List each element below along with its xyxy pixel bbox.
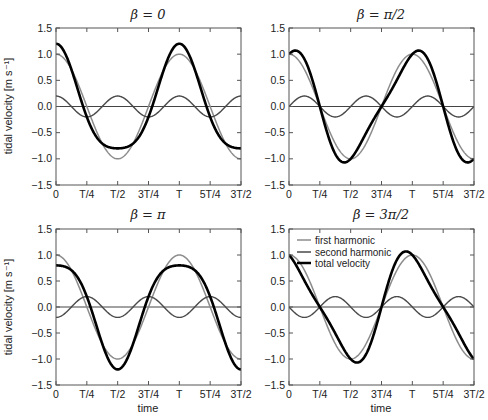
y-tick-label: −0.5 [31,126,52,138]
y-tick-label: 0.5 [270,275,285,287]
y-tick-label: −0.5 [264,126,285,138]
x-axis-label-left: time [138,402,159,414]
y-tick-label: 0.0 [37,301,52,313]
y-tick-label: −1.0 [264,353,285,365]
x-tick-label: 3T/4 [138,388,159,400]
x-tick-label: 0 [286,188,292,200]
y-tick-label: −1.0 [31,152,52,164]
legend-label-first-harmonic: first harmonic [315,235,375,246]
x-tick-label: 5T/4 [433,388,454,400]
legend: first harmonic second harmonic total vel… [297,235,391,269]
y-tick-label: 0.0 [270,100,285,112]
y-tick-label: 1.0 [270,249,285,261]
x-tick-label: T [409,388,416,400]
y-tick-label: −1.5 [31,379,52,391]
x-tick-label: T [176,188,183,200]
x-tick-label: T/4 [79,388,94,400]
panel-beta-pi-over-2: β = π/2 0T/4T/23T/4T5T/43T/21.51.00.50.0… [264,7,484,200]
total-velocity-line [56,44,241,149]
x-tick-label: 3T/2 [463,188,484,200]
x-tick-label: T/2 [110,388,125,400]
y-axis-label-bottom: tidal velocity [m s⁻¹] [2,259,14,355]
y-tick-label: 1.0 [37,48,52,60]
legend-label-second-harmonic: second harmonic [315,247,391,258]
y-tick-label: −1.0 [264,152,285,164]
y-tick-label: −0.5 [264,327,285,339]
x-tick-label: T [176,388,183,400]
y-tick-label: 1.5 [37,22,52,34]
x-tick-label: 0 [53,388,59,400]
panel-beta-0: β = 0 0T/4T/23T/4T5T/43T/21.51.00.50.0−0… [31,7,251,200]
panel-title: β = π/2 [356,7,405,22]
x-tick-label: T/2 [110,188,125,200]
y-tick-label: −1.5 [264,379,285,391]
y-tick-label: 1.5 [270,22,285,34]
total-velocity-line [56,265,241,369]
x-tick-label: 0 [286,388,292,400]
x-tick-label: T [409,188,416,200]
x-tick-label: 5T/4 [200,388,221,400]
y-tick-label: 0.5 [270,74,285,86]
x-tick-label: 0 [53,188,59,200]
y-tick-label: −0.5 [31,327,52,339]
y-tick-label: −1.5 [31,179,52,191]
x-tick-label: 3T/4 [371,188,392,200]
x-tick-label: T/4 [312,188,327,200]
panel-title: β = 3π/2 [352,207,409,222]
x-tick-label: T/2 [343,388,358,400]
figure: β = 0 0T/4T/23T/4T5T/43T/21.51.00.50.0−0… [0,0,488,420]
x-tick-label: 3T/2 [230,188,251,200]
y-tick-label: 0.0 [270,301,285,313]
x-tick-label: 5T/4 [200,188,221,200]
x-tick-label: 3T/2 [463,388,484,400]
y-axis-label-top: tidal velocity [m s⁻¹] [2,58,14,154]
x-tick-label: T/4 [312,388,327,400]
y-tick-label: 0.5 [37,74,52,86]
y-tick-label: 1.5 [37,223,52,235]
y-tick-label: −1.5 [264,179,285,191]
x-tick-label: 3T/4 [138,188,159,200]
x-tick-label: 3T/2 [230,388,251,400]
panel-title: β = 0 [130,7,166,22]
x-tick-label: T/4 [79,188,94,200]
y-tick-label: 1.0 [37,249,52,261]
y-tick-label: −1.0 [31,353,52,365]
x-tick-label: T/2 [343,188,358,200]
x-axis-label-right: time [371,402,392,414]
y-tick-label: 0.5 [37,275,52,287]
y-tick-label: 0.0 [37,100,52,112]
x-tick-label: 3T/4 [371,388,392,400]
panel-beta-pi: β = π 0T/4T/23T/4T5T/43T/21.51.00.50.0−0… [31,207,251,400]
panel-title: β = π [129,207,166,222]
y-tick-label: 1.5 [270,223,285,235]
y-tick-label: 1.0 [270,48,285,60]
x-tick-label: 5T/4 [433,188,454,200]
legend-label-total-velocity: total velocity [315,258,370,269]
